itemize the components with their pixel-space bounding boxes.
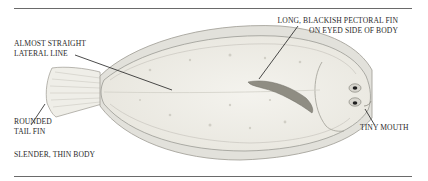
- label-pectoral-fin-text-1: LONG, BLACKISH PECTORAL FIN: [278, 16, 398, 26]
- label-mouth-text: TINY MOUTH: [360, 123, 409, 133]
- label-lateral-line-text-2: LATERAL LINE: [14, 49, 86, 59]
- label-body: SLENDER, THIN BODY: [14, 150, 95, 160]
- upper-eye: [349, 84, 361, 92]
- lower-eye: [349, 98, 361, 106]
- label-lateral-line-text-1: ALMOST STRAIGHT: [14, 39, 86, 49]
- label-tail-fin-text-1: ROUNDED: [14, 117, 52, 127]
- label-body-text: SLENDER, THIN BODY: [14, 150, 95, 160]
- tail-fin: [46, 67, 102, 117]
- label-pectoral-fin-text-2: ON EYED SIDE OF BODY: [278, 26, 398, 36]
- label-tail-fin-text-2: TAIL FIN: [14, 127, 52, 137]
- label-lateral-line: ALMOST STRAIGHT LATERAL LINE: [14, 39, 86, 58]
- label-tail-fin: ROUNDED TAIL FIN: [14, 117, 52, 136]
- fish-diagram: ALMOST STRAIGHT LATERAL LINE LONG, BLACK…: [0, 0, 428, 181]
- label-pectoral-fin: LONG, BLACKISH PECTORAL FIN ON EYED SIDE…: [278, 16, 398, 35]
- label-mouth: TINY MOUTH: [360, 123, 409, 133]
